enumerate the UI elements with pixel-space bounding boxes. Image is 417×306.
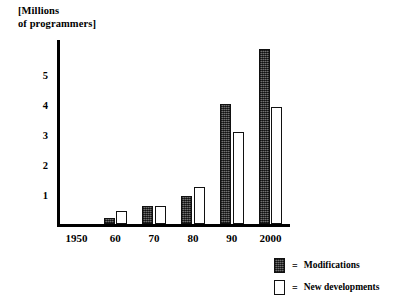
bar-2000-new-developments [271, 107, 282, 225]
bar-60-new-developments [116, 211, 127, 225]
bar-series-layer [57, 40, 290, 224]
x-tick-label-2000: 2000 [260, 232, 282, 244]
bar-80-new-developments [194, 187, 205, 225]
legend-swatch-modifications-icon [274, 258, 285, 273]
bar-2000-modifications [259, 49, 270, 224]
plot-area: 12345 1950607080902000 [57, 40, 290, 227]
bar-70-modifications [142, 206, 153, 224]
bar-60-modifications [104, 218, 115, 224]
x-tick-label-90: 90 [226, 232, 237, 244]
chart-legend: = Modifications = New developments [274, 254, 379, 298]
legend-label-new-developments: New developments [304, 282, 380, 292]
legend-swatch-new-developments-icon [274, 280, 285, 295]
axis-title-line-2: of programmers] [18, 18, 96, 29]
x-tick-label-80: 80 [187, 232, 198, 244]
bar-chart: [Millionsof programmers] 12345 195060708… [0, 0, 417, 306]
y-tick-label-4: 4 [43, 101, 48, 111]
y-tick-label-5: 5 [43, 71, 48, 81]
x-tick-label-70: 70 [149, 232, 160, 244]
bar-90-modifications [220, 104, 231, 225]
x-tick-label-60: 60 [110, 232, 121, 244]
bar-70-new-developments [155, 206, 166, 224]
legend-equals-sign: = [292, 260, 298, 271]
legend-item-new-developments: = New developments [274, 276, 379, 298]
y-tick-label-3: 3 [43, 131, 48, 141]
legend-item-modifications: = Modifications [274, 254, 379, 276]
y-tick-label-1: 1 [43, 191, 48, 201]
y-tick-label-2: 2 [43, 161, 48, 171]
chart-axis-title: [Millionsof programmers] [18, 4, 96, 30]
legend-equals-sign: = [292, 282, 298, 293]
axis-title-line-1: [Millions [18, 5, 59, 16]
x-axis-line [57, 224, 290, 227]
bar-80-modifications [181, 196, 192, 225]
bar-90-new-developments [233, 132, 244, 224]
legend-label-modifications: Modifications [304, 260, 360, 270]
x-tick-label-1950: 1950 [65, 232, 87, 244]
